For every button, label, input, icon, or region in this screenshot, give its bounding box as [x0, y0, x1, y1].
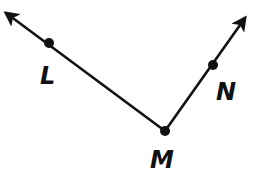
label-n: N: [216, 78, 236, 106]
ray-mn: [165, 18, 245, 131]
angle-diagram: L M N: [0, 0, 262, 176]
ray-ml: [6, 13, 165, 131]
point-m: [160, 126, 170, 136]
label-l: L: [40, 62, 55, 90]
point-l: [44, 38, 54, 48]
label-m: M: [150, 146, 174, 174]
point-n: [208, 60, 218, 70]
